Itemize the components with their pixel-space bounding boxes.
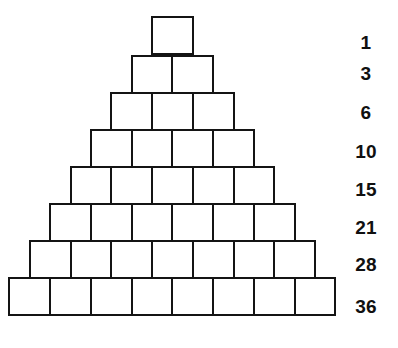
cumulative-total-label: 21: [344, 218, 388, 237]
pyramid-block: [213, 204, 254, 241]
pyramid-block: [254, 278, 295, 315]
pyramid-block: [111, 93, 152, 130]
pyramid-row: [50, 204, 295, 241]
pyramid-row: [30, 241, 315, 278]
pyramid-row: [91, 130, 254, 167]
pyramid-row: [9, 278, 335, 315]
pyramid-block: [213, 278, 254, 315]
cumulative-total-labels: 1361015212836: [344, 0, 398, 348]
pyramid-block: [213, 130, 254, 167]
pyramid-block: [152, 241, 193, 278]
cumulative-total-label: 3: [344, 64, 388, 83]
pyramid-block: [111, 167, 152, 204]
pyramid-block: [132, 204, 173, 241]
cumulative-total-label: 36: [344, 297, 388, 316]
pyramid-block: [172, 204, 213, 241]
pyramid-block: [295, 278, 336, 315]
pyramid-row: [71, 167, 275, 204]
pyramid-block: [91, 204, 132, 241]
pyramid-block: [30, 241, 71, 278]
pyramid-row: [111, 93, 233, 130]
pyramid-block: [274, 241, 315, 278]
pyramid-block: [91, 130, 132, 167]
cumulative-total-label: 28: [344, 255, 388, 274]
pyramid-block: [111, 241, 152, 278]
figure-canvas: 1361015212836: [0, 0, 398, 348]
pyramid-block: [71, 167, 112, 204]
pyramid-block: [193, 167, 234, 204]
pyramid-block: [234, 167, 275, 204]
pyramid-block: [234, 241, 275, 278]
block-pyramid: [0, 0, 348, 348]
pyramid-block: [193, 93, 234, 130]
pyramid-row: [132, 56, 214, 93]
cumulative-total-label: 1: [344, 33, 388, 52]
cumulative-total-label: 10: [344, 142, 388, 161]
pyramid-block: [132, 56, 173, 93]
pyramid-block: [172, 278, 213, 315]
pyramid-block: [9, 278, 50, 315]
pyramid-block: [132, 278, 173, 315]
pyramid-block: [91, 278, 132, 315]
pyramid-block: [172, 56, 213, 93]
pyramid-rows: [9, 17, 335, 315]
pyramid-block: [193, 241, 234, 278]
pyramid-block: [132, 130, 173, 167]
pyramid-block: [50, 204, 91, 241]
pyramid-block: [152, 17, 193, 54]
pyramid-block: [152, 167, 193, 204]
cumulative-total-label: 6: [344, 103, 388, 122]
pyramid-block: [71, 241, 112, 278]
cumulative-total-label: 15: [344, 180, 388, 199]
pyramid-block: [50, 278, 91, 315]
pyramid-block: [172, 130, 213, 167]
pyramid-block: [152, 93, 193, 130]
pyramid-row: [152, 17, 193, 54]
pyramid-block: [254, 204, 295, 241]
